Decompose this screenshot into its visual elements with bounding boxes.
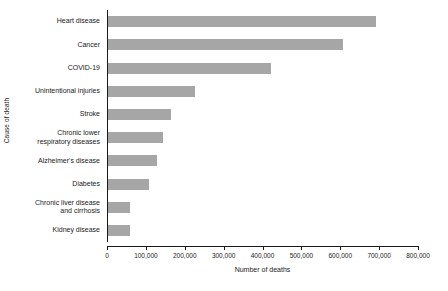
x-axis-tick-labels: 0100,000200,000300,000400,000500,000600,… [107,252,418,264]
bar-row [108,126,418,149]
bar [108,16,376,27]
bar-row [108,172,418,195]
bar-row [108,33,418,56]
x-axis-tick [146,246,147,250]
x-axis-tick [301,246,302,250]
bar-row [108,149,418,172]
bar [108,109,171,120]
category-label: Chronic liver disease and cirrhosis [14,196,104,219]
bar-row [108,80,418,103]
bar-row [108,56,418,79]
x-axis-tick-label: 700,000 [367,252,391,259]
bar [108,202,130,213]
x-axis-title: Number of deaths [107,266,418,273]
x-axis-ticks [107,246,418,251]
bar [108,132,163,143]
category-label-text: Heart disease [57,17,100,25]
x-axis-tick-label: 400,000 [251,252,275,259]
category-label-text: Chronic lower respiratory diseases [37,129,100,146]
category-label-text: Diabetes [72,180,100,188]
x-axis-tick [418,246,419,250]
bar [108,86,195,97]
x-axis-tick [340,246,341,250]
bar-row [108,219,418,242]
x-axis-tick-label: 300,000 [212,252,236,259]
x-axis-tick-label: 100,000 [134,252,158,259]
category-label: Stroke [14,103,104,126]
category-label: Alzheimer's disease [14,149,104,172]
category-label-text: Unintentional injuries [35,87,100,95]
x-axis-tick [107,246,108,250]
category-label-text: Chronic liver disease and cirrhosis [35,199,100,216]
category-label-text: COVID-19 [68,64,100,72]
plot-area [107,10,418,242]
category-label-text: Stroke [80,110,100,118]
category-label: Diabetes [14,172,104,195]
category-label-column: Heart diseaseCancerCOVID-19Unintentional… [14,10,104,242]
x-axis-tick-label: 500,000 [290,252,314,259]
category-label-text: Kidney disease [53,226,100,234]
category-label: Heart disease [14,10,104,33]
x-axis-tick [185,246,186,250]
category-label: Cancer [14,33,104,56]
y-axis-title-text: Cause of death [4,97,11,143]
y-axis-title: Cause of death [0,0,14,240]
category-label-text: Cancer [77,41,100,49]
category-label: Kidney disease [14,219,104,242]
bar-chart: Cause of death Heart diseaseCancerCOVID-… [0,0,448,291]
category-label: Chronic lower respiratory diseases [14,126,104,149]
x-axis-tick-label: 800,000 [406,252,430,259]
bar-row [108,196,418,219]
x-axis-tick [224,246,225,250]
bar-row [108,10,418,33]
x-axis-tick-label: 0 [105,252,109,259]
x-axis-tick [263,246,264,250]
bar [108,39,343,50]
bar-series [108,10,418,242]
bar [108,225,130,236]
category-label-text: Alzheimer's disease [38,157,100,165]
bar [108,155,157,166]
x-axis-tick-label: 600,000 [329,252,353,259]
category-label: Unintentional injuries [14,80,104,103]
x-axis-tick [379,246,380,250]
bar [108,63,271,74]
bar-row [108,103,418,126]
category-label: COVID-19 [14,56,104,79]
bar [108,179,149,190]
x-axis-tick-label: 200,000 [173,252,197,259]
